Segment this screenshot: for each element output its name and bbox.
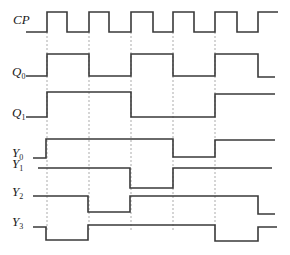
waveform-y0 — [33, 139, 275, 158]
label-y2: Y2 — [12, 184, 23, 201]
waveform-y2 — [33, 196, 275, 214]
label-q0: Q0 — [12, 64, 25, 81]
label-q1: Q1 — [12, 105, 25, 122]
waveform-y1 — [38, 168, 272, 188]
waveform-cp — [26, 12, 278, 32]
label-cp: CP — [13, 12, 30, 27]
timing-diagram: CPQ0Q1Y0Y1Y2Y3 — [0, 0, 290, 255]
waveform-q0 — [26, 54, 275, 77]
waveform-q1 — [26, 92, 275, 117]
label-y3: Y3 — [12, 214, 23, 231]
signal-waveforms — [26, 12, 278, 241]
waveform-y3 — [33, 225, 277, 241]
signal-labels: CPQ0Q1Y0Y1Y2Y3 — [12, 12, 30, 231]
